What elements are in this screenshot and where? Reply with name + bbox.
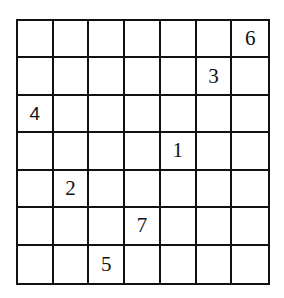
grid-cell-r5-c0[interactable] [18,208,54,245]
grid-cell-r4-c6[interactable] [232,171,268,208]
grid-cell-r6-c3[interactable] [125,246,161,283]
grid-cell-r3-c4[interactable]: 1 [161,133,197,170]
grid-cell-r3-c5[interactable] [197,133,233,170]
grid-cell-r2-c3[interactable] [125,96,161,133]
grid-cell-r2-c2[interactable] [89,96,125,133]
grid-cell-r5-c6[interactable] [232,208,268,245]
given-number: 1 [172,138,183,163]
grid-cell-r6-c6[interactable] [232,246,268,283]
grid-cell-r0-c4[interactable] [161,21,197,58]
given-number: 3 [208,64,219,89]
grid-cell-r4-c1[interactable]: 2 [54,171,90,208]
given-number: 6 [245,26,256,51]
grid-cell-r1-c2[interactable] [89,58,125,95]
grid-cell-r6-c5[interactable] [197,246,233,283]
grid-cell-r6-c4[interactable] [161,246,197,283]
grid-cell-r5-c3[interactable]: 7 [125,208,161,245]
grid-cell-r2-c6[interactable] [232,96,268,133]
grid-cell-r0-c6[interactable]: 6 [232,21,268,58]
grid-cell-r5-c2[interactable] [89,208,125,245]
grid-cell-r1-c6[interactable] [232,58,268,95]
grid-cell-r0-c3[interactable] [125,21,161,58]
grid-cell-r0-c1[interactable] [54,21,90,58]
grid-cell-r2-c5[interactable] [197,96,233,133]
grid-cell-r3-c2[interactable] [89,133,125,170]
grid-cell-r4-c2[interactable] [89,171,125,208]
grid-cell-r4-c0[interactable] [18,171,54,208]
given-number: 7 [137,213,148,238]
grid-cell-r6-c2[interactable]: 5 [89,246,125,283]
grid-cell-r5-c1[interactable] [54,208,90,245]
given-number: 2 [65,176,76,201]
grid-cell-r2-c0[interactable]: 4 [18,96,54,133]
given-number: 4 [30,103,41,125]
grid-cell-r1-c1[interactable] [54,58,90,95]
given-number: 5 [101,252,112,277]
grid-cell-r3-c1[interactable] [54,133,90,170]
grid-cell-r4-c5[interactable] [197,171,233,208]
grid-cell-r6-c1[interactable] [54,246,90,283]
grid-cell-r4-c3[interactable] [125,171,161,208]
grid-cell-r3-c0[interactable] [18,133,54,170]
grid-cell-r1-c5[interactable]: 3 [197,58,233,95]
grid-cell-r5-c5[interactable] [197,208,233,245]
grid-cell-r1-c0[interactable] [18,58,54,95]
grid-cell-r4-c4[interactable] [161,171,197,208]
grid-cell-r2-c1[interactable] [54,96,90,133]
grid-cell-r6-c0[interactable] [18,246,54,283]
puzzle-grid: 6341275 [16,19,270,285]
grid-cell-r2-c4[interactable] [161,96,197,133]
grid-cell-r3-c3[interactable] [125,133,161,170]
grid-cell-r0-c2[interactable] [89,21,125,58]
grid-cell-r1-c4[interactable] [161,58,197,95]
grid-cell-r5-c4[interactable] [161,208,197,245]
grid-cell-r3-c6[interactable] [232,133,268,170]
grid-cell-r1-c3[interactable] [125,58,161,95]
grid-cell-r0-c0[interactable] [18,21,54,58]
grid-cell-r0-c5[interactable] [197,21,233,58]
